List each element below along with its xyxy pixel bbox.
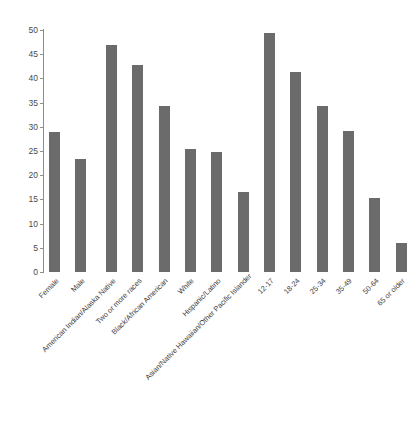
y-axis-tick <box>40 199 44 200</box>
bar <box>343 131 354 272</box>
bar <box>264 33 275 272</box>
bar <box>159 106 170 272</box>
y-axis-tick <box>40 224 44 225</box>
bar <box>238 192 249 272</box>
y-axis-tick <box>40 78 44 79</box>
bar <box>49 132 60 272</box>
y-axis-tick <box>40 175 44 176</box>
bar-chart: 05101520253035404550 FemaleMaleAmerican … <box>0 0 417 442</box>
bar <box>396 243 407 272</box>
y-axis-tick-label: 0 <box>0 268 38 277</box>
y-axis-tick <box>40 127 44 128</box>
bar <box>317 106 328 272</box>
y-axis-tick-label: 40 <box>0 74 38 83</box>
y-axis-tick-label: 35 <box>0 98 38 107</box>
y-axis-tick-label: 50 <box>0 26 38 35</box>
y-axis-tick <box>40 54 44 55</box>
y-axis-tick-label: 20 <box>0 171 38 180</box>
y-axis-tick-label: 10 <box>0 219 38 228</box>
bar <box>132 65 143 272</box>
y-axis-tick-label: 25 <box>0 147 38 156</box>
y-axis-tick <box>40 272 44 273</box>
y-axis-tick-label: 45 <box>0 50 38 59</box>
y-axis-tick-label: 5 <box>0 244 38 253</box>
bar <box>290 72 301 272</box>
plot-area: 05101520253035404550 FemaleMaleAmerican … <box>0 0 417 442</box>
bar <box>211 152 222 272</box>
y-axis-tick <box>40 248 44 249</box>
y-axis-tick <box>40 103 44 104</box>
bar <box>369 198 380 272</box>
bar <box>185 149 196 272</box>
y-axis-tick <box>40 151 44 152</box>
y-axis-tick-label: 30 <box>0 123 38 132</box>
y-axis-tick-label: 15 <box>0 195 38 204</box>
y-axis-tick <box>40 30 44 31</box>
bar <box>75 159 86 272</box>
bar <box>106 45 117 272</box>
